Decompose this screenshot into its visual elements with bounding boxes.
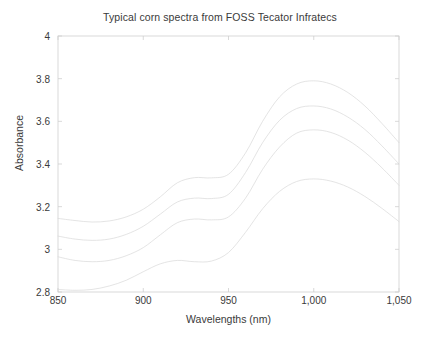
series-lines: [58, 81, 399, 290]
tick-marks: [58, 36, 399, 292]
series-line-spectrum-4: [58, 179, 399, 290]
y-tick-label: 3.2: [8, 201, 50, 212]
y-axis-label: Absorbance: [13, 88, 25, 198]
series-line-spectrum-1: [58, 81, 399, 222]
x-tick-label: 850: [28, 295, 88, 306]
x-tick-label: 950: [199, 295, 259, 306]
chart-figure: Typical corn spectra from FOSS Tecator I…: [0, 0, 440, 339]
x-axis-label: Wavelengths (nm): [58, 313, 399, 325]
y-tick-label: 3: [8, 244, 50, 255]
y-tick-label: 4: [8, 31, 50, 42]
x-tick-label: 900: [113, 295, 173, 306]
series-line-spectrum-3: [58, 130, 399, 262]
chart-axes-svg: [0, 0, 440, 339]
y-tick-label: 3.8: [8, 73, 50, 84]
x-tick-label: 1,050: [369, 295, 429, 306]
axes-box: [58, 36, 399, 292]
x-tick-label: 1,000: [284, 295, 344, 306]
series-line-spectrum-2: [58, 106, 399, 240]
